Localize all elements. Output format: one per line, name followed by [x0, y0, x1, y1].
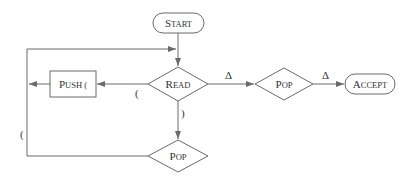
start-label: START	[165, 17, 193, 29]
edge-label-open-paren: (	[135, 87, 139, 100]
node-read: READ	[148, 67, 208, 101]
pop-bottom-label: POP	[170, 150, 187, 162]
node-pop-bottom: POP	[148, 140, 208, 172]
edge-label-close-paren: )	[181, 107, 185, 120]
edge-label-delta-1: Δ	[225, 69, 232, 81]
accept-label: ACCEPT	[353, 78, 388, 90]
edge-label-delta-2: Δ	[322, 69, 329, 81]
read-label: READ	[166, 78, 191, 90]
pop-right-label: POP	[276, 78, 293, 90]
node-pop-right: POP	[255, 68, 313, 100]
push-label: PUSH (	[59, 78, 87, 90]
node-accept: ACCEPT	[345, 74, 395, 94]
edge-label-loop-paren: (	[20, 128, 24, 141]
node-push: PUSH (	[50, 71, 96, 97]
edge-loop-back	[27, 49, 176, 156]
node-start: START	[153, 13, 204, 33]
flowchart-canvas: ( ) Δ Δ ( START READ PUSH ( POP ACCEPT P…	[0, 0, 415, 183]
